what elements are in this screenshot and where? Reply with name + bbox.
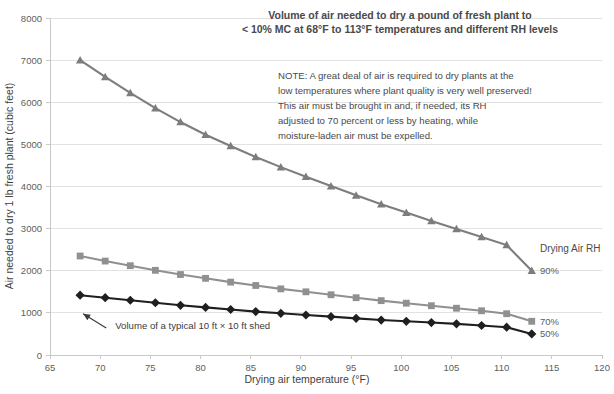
series-marker-70pct-12 [378,297,385,304]
chart-figure: 010002000300040005000600070008000 657075… [0,0,614,394]
y-tick-label-1000: 1000 [21,307,42,318]
series-marker-70pct-13 [403,300,410,307]
x-tick-label-80: 80 [195,362,206,373]
series-marker-70pct-10 [328,291,335,298]
legend-title: Drying Air RH [540,243,601,254]
x-tick-label-90: 90 [296,362,307,373]
chart-title-line-1: Volume of air needed to dry a pound of f… [268,9,531,21]
note-line-3: adjusted to 70 percent or less by heatin… [278,115,478,126]
y-tick-label-0: 0 [37,350,42,361]
series-marker-70pct-2 [127,262,134,269]
x-tick-label-100: 100 [393,362,409,373]
x-tick-label-120: 120 [594,362,610,373]
legend-label-90pct[interactable]: 90% [540,265,560,276]
note-line-4: moisture-laden air must be expelled. [278,130,433,141]
series-marker-70pct-4 [177,271,184,278]
series-marker-70pct-1 [102,258,109,265]
note-line-2: This air must be brought in and, if need… [278,100,487,111]
legend-label-70pct[interactable]: 70% [540,316,560,327]
legend-label-50pct[interactable]: 50% [540,328,560,339]
y-tick-label-8000: 8000 [21,13,42,24]
y-tick-label-6000: 6000 [21,97,42,108]
series-marker-70pct-15 [453,305,460,312]
note-line-0: NOTE: A great deal of air is required to… [278,70,514,81]
series-marker-70pct-11 [353,294,360,301]
x-tick-label-105: 105 [444,362,460,373]
series-marker-70pct-18 [528,318,535,325]
series-marker-70pct-3 [152,267,159,274]
series-marker-70pct-16 [478,307,485,314]
x-tick-label-70: 70 [95,362,106,373]
x-tick-label-95: 95 [346,362,357,373]
chart-title-line-2: < 10% MC at 68°F to 113°F temperatures a… [242,23,558,35]
y-tick-label-2000: 2000 [21,265,42,276]
series-marker-70pct-17 [503,310,510,317]
x-tick-label-110: 110 [494,362,509,373]
air-volume-line-chart: 010002000300040005000600070008000 657075… [0,0,614,394]
x-axis-title: Drying air temperature (°F) [245,373,370,385]
series-marker-70pct-9 [303,288,310,295]
series-marker-70pct-6 [227,279,234,286]
x-tick-label-75: 75 [145,362,156,373]
shed-volume-annotation-label: Volume of a typical 10 ft × 10 ft shed [115,320,270,331]
chart-background [0,0,614,394]
y-tick-label-3000: 3000 [21,223,42,234]
y-axis-tick-labels: 010002000300040005000600070008000 [21,13,42,361]
y-tick-label-5000: 5000 [21,139,42,150]
y-tick-label-7000: 7000 [21,55,42,66]
x-tick-label-115: 115 [544,362,559,373]
note-line-1: low temperatures where plant quality is … [278,85,532,96]
y-tick-label-4000: 4000 [21,181,42,192]
series-marker-70pct-8 [277,285,284,292]
series-marker-70pct-0 [77,253,84,260]
x-tick-label-85: 85 [245,362,256,373]
series-marker-70pct-7 [252,282,259,289]
series-marker-70pct-14 [428,302,435,309]
y-axis-title: Air needed to dry 1 lb fresh plant (cubi… [3,83,15,290]
x-tick-label-65: 65 [45,362,56,373]
series-marker-70pct-5 [202,275,209,282]
